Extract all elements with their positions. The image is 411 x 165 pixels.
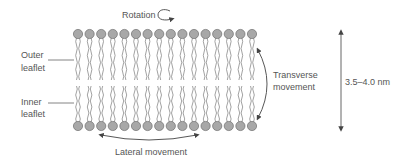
lipid-tail: [76, 86, 78, 122]
lipid-tail: [145, 38, 147, 80]
lipid-tail: [145, 86, 147, 122]
lipid-head: [143, 29, 152, 38]
lipid-tail: [90, 86, 92, 122]
lipid-tail: [157, 86, 159, 122]
lipid-tail: [114, 38, 116, 80]
lipid-tail: [102, 86, 104, 122]
lipid-tail: [253, 38, 255, 80]
lipid-head: [85, 121, 94, 130]
lipid-tail: [111, 38, 113, 80]
lipid-head: [166, 29, 175, 38]
lateral-movement-label: Lateral movement: [115, 146, 187, 158]
lipid-tail: [227, 38, 229, 80]
lipid-tail: [250, 86, 252, 122]
transverse-arrow-icon: [258, 50, 267, 118]
lipid-tail: [241, 38, 243, 80]
lipid-head: [97, 29, 106, 38]
lipid-tail: [218, 86, 220, 122]
lipid-tail: [241, 86, 243, 122]
lipid-tail: [99, 86, 101, 122]
lipid-head: [178, 121, 187, 130]
lipid-head: [108, 29, 117, 38]
lipid-tail: [180, 38, 182, 80]
lipid-tail: [102, 38, 104, 80]
lipid-tail: [250, 38, 252, 80]
lipid-tail: [87, 86, 89, 122]
lipid-head: [73, 29, 82, 38]
lipid-tail: [125, 86, 127, 122]
lipid-head: [97, 121, 106, 130]
lipid-tail: [122, 86, 124, 122]
lipid-tail: [195, 38, 197, 80]
lipid-tail: [192, 38, 194, 80]
lipid-head: [73, 121, 82, 130]
lipid-head: [120, 29, 129, 38]
lipid-head: [85, 29, 94, 38]
lipid-tail: [114, 86, 116, 122]
lipid-tail: [203, 38, 205, 80]
lipid-tail: [206, 38, 208, 80]
lipid-tail: [157, 38, 159, 80]
lipid-head: [108, 121, 117, 130]
lipid-head: [247, 121, 256, 130]
lipid-head: [189, 121, 198, 130]
transverse-label-line1: Transverse: [273, 69, 318, 81]
lipid-head: [155, 121, 164, 130]
lipid-tail: [137, 86, 139, 122]
lipid-tail: [192, 86, 194, 122]
lipid-head: [143, 121, 152, 130]
lipid-head: [236, 121, 245, 130]
rotation-label: Rotation: [122, 9, 156, 21]
lipid-tail: [230, 38, 232, 80]
lipid-head: [201, 121, 210, 130]
lipid-tail: [160, 38, 162, 80]
lipid-tail: [218, 38, 220, 80]
lipid-tail: [79, 38, 81, 80]
lipid-tail: [253, 86, 255, 122]
lipid-head: [236, 29, 245, 38]
thickness-label: 3.5–4.0 nm: [345, 76, 390, 88]
lipid-tail: [160, 86, 162, 122]
lipid-tail: [87, 38, 89, 80]
transverse-label-line2: movement: [273, 81, 315, 93]
lipid-tail: [134, 86, 136, 122]
lipid-head: [131, 121, 140, 130]
lipid-tail: [238, 86, 240, 122]
lipid-tail: [215, 86, 217, 122]
lipid-tail: [195, 86, 197, 122]
lipid-tail: [206, 86, 208, 122]
lipid-tail: [169, 86, 171, 122]
lipid-tail: [122, 38, 124, 80]
inner-leaflet-label-line1: Inner: [21, 96, 42, 108]
lipid-tail: [90, 38, 92, 80]
rotation-arrow-icon: [158, 10, 172, 20]
outer-leaflet-label-line1: Outer: [21, 49, 44, 61]
lipid-tail: [111, 86, 113, 122]
lipid-tail: [79, 86, 81, 122]
lipid-head: [120, 121, 129, 130]
lipid-tail: [183, 86, 185, 122]
lipid-tail: [172, 86, 174, 122]
lipid-tail: [148, 86, 150, 122]
lipid-tail: [76, 38, 78, 80]
lipid-head: [224, 29, 233, 38]
lipid-tail: [99, 38, 101, 80]
lipid-tail: [203, 86, 205, 122]
lipid-head: [166, 121, 175, 130]
lipid-tail: [125, 38, 127, 80]
outer-leaflet-label-line2: leaflet: [21, 62, 45, 74]
lipid-bilayer-diagram: Rotation Outer leaflet Inner leaflet Tra…: [0, 0, 411, 165]
lipid-tail: [169, 38, 171, 80]
lipid-tail: [183, 38, 185, 80]
lipid-head: [201, 29, 210, 38]
lipid-head: [213, 121, 222, 130]
lipid-tail: [134, 38, 136, 80]
lipid-head: [247, 29, 256, 38]
lipid-tail: [215, 38, 217, 80]
lateral-arrow-icon: [101, 135, 197, 140]
inner-leaflet-label-line2: leaflet: [21, 108, 45, 120]
lipid-head: [131, 29, 140, 38]
lipid-tail: [137, 38, 139, 80]
lipid-tail: [172, 38, 174, 80]
lipid-tail: [180, 86, 182, 122]
